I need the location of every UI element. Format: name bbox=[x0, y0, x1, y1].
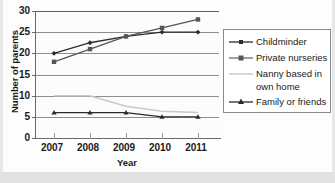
data-point-1-1 bbox=[88, 47, 92, 51]
legend-label-private-nurseries: Private nurseries bbox=[256, 51, 332, 64]
legend-key-family-friends bbox=[228, 95, 254, 109]
data-point-1-3 bbox=[160, 26, 164, 30]
legend-item-nanny[interactable]: Nanny based in own home bbox=[224, 67, 332, 81]
legend-label-family-friends: Family or friends bbox=[256, 95, 332, 108]
legend-key-private-nurseries bbox=[228, 51, 254, 65]
legend-label-nanny-line2: own home bbox=[256, 80, 332, 93]
legend-item-family-friends[interactable]: Family or friends bbox=[224, 95, 332, 109]
data-point-0-3 bbox=[160, 30, 165, 35]
data-point-1-0 bbox=[52, 60, 56, 64]
legend-item-private-nurseries[interactable]: Private nurseries bbox=[224, 51, 332, 65]
legend-label-childminder: Childminder bbox=[256, 35, 332, 48]
data-point-1-2 bbox=[124, 34, 128, 38]
legend-key-nanny bbox=[228, 67, 254, 81]
data-point-0-1 bbox=[88, 40, 93, 45]
data-point-0-4 bbox=[196, 30, 201, 35]
chart-screenshot: 30 25 20 15 10 5 0 2007 2008 2009 2010 2… bbox=[0, 0, 335, 183]
data-point-0-0 bbox=[52, 51, 57, 56]
legend-item-childminder[interactable]: Childminder bbox=[224, 35, 332, 49]
data-point-1-4 bbox=[196, 17, 200, 21]
legend-key-childminder bbox=[228, 35, 254, 49]
chart-legend: Childminder Private nurseries Nanny base… bbox=[223, 29, 331, 113]
legend-label-nanny: Nanny based in bbox=[256, 67, 332, 80]
series-line-1 bbox=[54, 19, 198, 61]
